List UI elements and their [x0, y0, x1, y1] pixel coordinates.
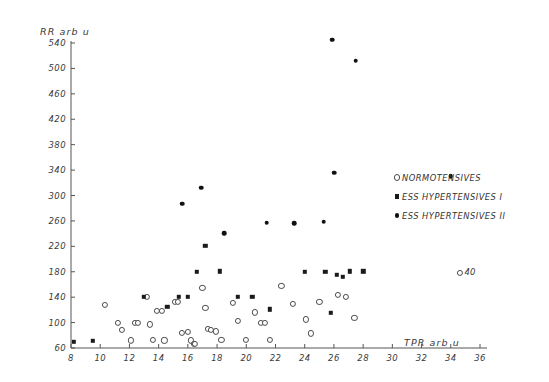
data-point: [264, 221, 269, 226]
y-tick-460: 460: [49, 89, 66, 99]
data-point: [267, 307, 271, 311]
x-tick-20: 20: [240, 353, 252, 363]
data-point: [250, 294, 254, 298]
data-point: [330, 38, 335, 43]
legend: NORMOTENSIVESESS HYPERTENSIVES IESS HYPE…: [392, 168, 505, 225]
data-point: [142, 294, 146, 298]
y-tick-420: 420: [49, 114, 66, 124]
data-point: [361, 269, 365, 273]
data-point: [321, 219, 326, 224]
data-point: [199, 186, 204, 191]
data-point: [335, 273, 339, 277]
y-tick-340: 340: [49, 165, 66, 175]
y-tick-260: 260: [49, 216, 66, 226]
data-point: [303, 270, 307, 274]
point-annotation-40: 40: [465, 267, 476, 277]
x-tick-18: 18: [211, 353, 223, 363]
y-tick-100: 100: [49, 318, 66, 328]
legend-marker-icon: [392, 213, 402, 218]
data-point: [292, 221, 297, 226]
x-tick-16: 16: [182, 353, 194, 363]
data-point: [354, 58, 359, 63]
x-tick-26: 26: [328, 353, 340, 363]
data-point: [332, 170, 337, 175]
y-tick-140: 140: [49, 292, 66, 302]
legend-label: NORMOTENSIVES: [402, 173, 481, 183]
x-tick-8: 8: [68, 353, 74, 363]
y-tick-380: 380: [49, 140, 66, 150]
data-point: [186, 294, 190, 298]
data-point: [340, 275, 344, 279]
scatter-plot-figure: RR arb u TPR arb u 601001401802202603003…: [0, 0, 549, 382]
y-tick-300: 300: [49, 191, 66, 201]
data-point: [222, 231, 227, 236]
x-tick-32: 32: [416, 353, 428, 363]
data-point: [203, 243, 207, 247]
data-point: [218, 269, 222, 273]
legend-item-2: ESS HYPERTENSIVES II: [392, 206, 505, 225]
data-point: [235, 294, 239, 298]
x-tick-36: 36: [474, 353, 486, 363]
legend-label: ESS HYPERTENSIVES II: [402, 211, 505, 221]
data-point: [180, 201, 185, 206]
x-tick-14: 14: [153, 353, 165, 363]
data-point: [323, 270, 327, 274]
data-point: [177, 294, 181, 298]
x-tick-30: 30: [387, 353, 399, 363]
legend-marker-icon: [392, 194, 402, 198]
y-tick-500: 500: [49, 63, 66, 73]
x-tick-28: 28: [357, 353, 369, 363]
legend-item-1: ESS HYPERTENSIVES I: [392, 187, 505, 206]
data-point: [329, 311, 333, 315]
y-tick-60: 60: [54, 343, 66, 353]
data-point: [194, 270, 198, 274]
x-tick-24: 24: [299, 353, 311, 363]
data-point: [165, 304, 169, 308]
data-point: [348, 269, 352, 273]
x-tick-22: 22: [270, 353, 282, 363]
data-point: [72, 339, 76, 343]
y-tick-220: 220: [49, 241, 66, 251]
x-tick-12: 12: [124, 353, 136, 363]
legend-marker-icon: [392, 174, 402, 180]
x-tick-34: 34: [445, 353, 457, 363]
x-tick-10: 10: [94, 353, 106, 363]
legend-label: ESS HYPERTENSIVES I: [402, 192, 502, 202]
y-tick-180: 180: [49, 267, 66, 277]
legend-item-0: NORMOTENSIVES: [392, 168, 505, 187]
y-tick-540: 540: [49, 38, 66, 48]
data-point: [91, 339, 95, 343]
